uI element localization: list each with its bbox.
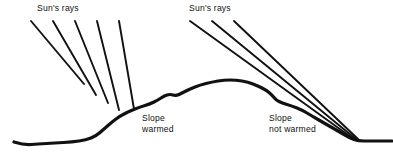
label-slope-warmed: Slope warmed bbox=[142, 113, 174, 135]
label-slope-warmed-line1: Slope bbox=[142, 113, 165, 123]
sun-ray-left-slope-rays-3 bbox=[75, 21, 108, 103]
label-sun-rays-left: Sun's rays bbox=[37, 3, 79, 14]
label-sun-rays-right: Sun's rays bbox=[189, 3, 231, 14]
sun-rays-slope-diagram: Sun's rays Sun's rays Slope warmed Slope… bbox=[0, 0, 393, 159]
sun-ray-left-slope-rays-5 bbox=[119, 21, 134, 109]
label-slope-warmed-line2: warmed bbox=[142, 124, 174, 135]
label-slope-not-warmed: Slope not warmed bbox=[269, 113, 316, 135]
label-slope-not-warmed-line1: Slope bbox=[269, 113, 292, 123]
sun-ray-left-slope-rays-4 bbox=[97, 21, 119, 110]
diagram-canvas bbox=[0, 0, 393, 159]
label-slope-not-warmed-line2: not warmed bbox=[269, 124, 316, 135]
hill-terrain-profile bbox=[14, 80, 392, 145]
